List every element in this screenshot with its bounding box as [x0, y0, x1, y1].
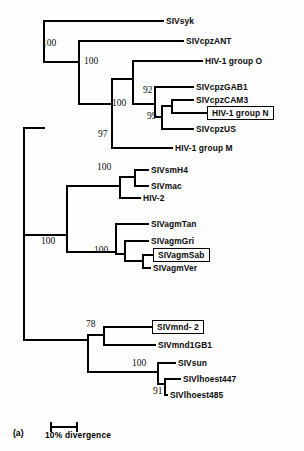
- tip-label-sivagmver: SIVagmVer: [153, 263, 197, 273]
- tip-label-sivagmtan: SIVagmTan: [151, 219, 196, 229]
- tip-label-hiv1-group-o: HIV-1 group O: [205, 56, 262, 66]
- tip-label-sivcpzcam3: SIVcpzCAM3: [196, 95, 248, 105]
- support-value-hiv1-m-sister-clade: 97: [98, 129, 108, 139]
- tip-label-sivmac: SIVmac: [151, 181, 182, 191]
- tip-label-sivlhoest447: SIVlhoest447: [183, 374, 236, 384]
- tip-label-hiv1-group-n: HIV-1 group N: [207, 106, 274, 120]
- support-value-root-upper-clade: 100: [42, 38, 56, 48]
- tip-label-sivcpzant: SIVcpzANT: [186, 36, 232, 46]
- tip-label-sivcpzgab1: SIVcpzGAB1: [196, 82, 248, 92]
- tip-label-sivsun: SIVsun: [178, 358, 207, 368]
- support-value-gab1-cam3-n-clade: 92: [143, 85, 153, 95]
- tip-label-sivcpzus: SIVcpzUS: [196, 124, 236, 134]
- support-value-agm-clade: 100: [94, 245, 108, 255]
- support-value-smh4-mac-clade: 100: [97, 162, 111, 172]
- tip-label-sivsyk: SIVsyk: [166, 16, 194, 26]
- scale-bar-label: 10% divergence: [45, 430, 111, 440]
- support-value-mnd-clade: 78: [86, 319, 96, 329]
- tip-label-sivagmsab: SIVagmSab: [153, 248, 210, 262]
- tip-label-sivmnd1gb1: SIVmnd1GB1: [158, 340, 212, 350]
- panel-letter: (a): [13, 428, 24, 438]
- support-value-lhoest-clade: 91: [153, 386, 163, 396]
- support-value-cpz-hiv1-clade: 100: [84, 56, 98, 66]
- support-value-cpz-group-n-o-clade: 100: [112, 98, 126, 108]
- tip-label-hiv1-group-m: HIV-1 group M: [175, 143, 233, 153]
- tip-label-hiv2: HIV-2: [143, 193, 164, 203]
- tip-label-sivsmh4: SIVsmH4: [151, 165, 188, 175]
- tip-label-sivmnd-2: SIVmnd- 2: [152, 320, 204, 334]
- support-value-sun-lhoest-clade: 100: [132, 358, 146, 368]
- phylogenetic-tree-figure: SIVsyk SIVcpzANT HIV-1 group O SIVcpzGAB…: [0, 0, 304, 451]
- support-value-cam3-n-us-clade: 99: [147, 111, 157, 121]
- tip-label-sivlhoest485: SIVlhoest485: [170, 390, 223, 400]
- support-value-hiv2-agm-clade: 100: [41, 236, 55, 246]
- tip-label-sivagmgri: SIVagmGri: [151, 236, 194, 246]
